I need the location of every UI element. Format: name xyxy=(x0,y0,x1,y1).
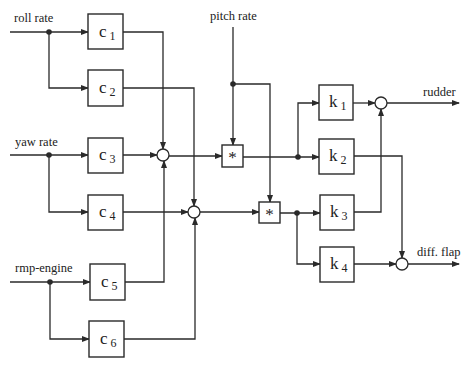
rmp-engine-wiring xyxy=(10,279,90,339)
block-symbol: c xyxy=(99,22,107,41)
junction-dot xyxy=(46,29,52,35)
output-block-k2: k2 xyxy=(319,139,354,174)
gain-block-c3: c3 xyxy=(88,138,123,173)
pitch-rate-wiring xyxy=(230,27,270,202)
input-label-yaw-rate: yaw rate xyxy=(15,135,58,149)
block-subscript: 3 xyxy=(342,209,348,223)
junction-dot xyxy=(295,154,301,160)
output-label-rudder: rudder xyxy=(423,85,456,99)
summing-junction-b xyxy=(188,206,200,218)
block-subscript: 4 xyxy=(342,261,348,275)
block-symbol: c xyxy=(101,272,109,291)
input-label-pitch-rate: pitch rate xyxy=(210,9,257,23)
multiplier-1: * xyxy=(222,145,243,167)
block-diagram: roll rate yaw rate rmp-engine pitch rate… xyxy=(0,0,472,367)
gain-block-c2: c2 xyxy=(88,70,123,106)
output-wiring xyxy=(387,103,459,264)
output-block-k4: k4 xyxy=(320,247,354,282)
block-symbol: k xyxy=(330,202,339,221)
block-subscript: 1 xyxy=(341,99,347,113)
block-subscript: 4 xyxy=(110,209,116,223)
block-symbol: c xyxy=(99,78,107,97)
summer-output-wiring xyxy=(169,156,259,212)
summing-junction-diff-flap xyxy=(396,258,408,270)
input-label-roll-rate: roll rate xyxy=(14,11,54,25)
block-subscript: 3 xyxy=(110,152,116,166)
summing-junction-rudder xyxy=(375,97,387,109)
k-block-output-wiring xyxy=(353,103,402,264)
block-subscript: 2 xyxy=(110,85,116,99)
output-block-k3: k3 xyxy=(320,195,354,230)
block-subscript: 6 xyxy=(111,336,117,350)
block-symbol: k xyxy=(329,92,338,111)
block-symbol: c xyxy=(100,329,108,348)
block-subscript: 5 xyxy=(112,279,118,293)
gain-block-c5: c5 xyxy=(90,264,125,300)
block-subscript: 2 xyxy=(341,153,347,167)
junction-dot xyxy=(47,279,53,285)
gain-block-c1: c1 xyxy=(88,14,123,49)
block-subscript: 1 xyxy=(110,29,116,43)
multiplier-output-wiring xyxy=(243,103,320,264)
multiplier-2: * xyxy=(259,202,280,224)
block-symbol: c xyxy=(99,145,107,164)
junction-dot xyxy=(230,81,236,87)
block-symbol: k xyxy=(329,146,338,165)
roll-rate-wiring xyxy=(10,29,88,88)
output-label-diff-flap: diff. flap xyxy=(417,245,461,259)
input-label-rmp-engine: rmp-engine xyxy=(15,261,73,275)
multiplier-symbol: * xyxy=(228,148,237,167)
output-block-k1: k1 xyxy=(319,85,353,120)
c-block-output-wiring xyxy=(123,32,195,339)
block-symbol: k xyxy=(330,254,339,273)
junction-dot xyxy=(294,210,300,216)
summing-junction-a xyxy=(157,149,169,161)
multiplier-symbol: * xyxy=(265,205,274,224)
gain-block-c6: c6 xyxy=(89,321,124,357)
block-symbol: c xyxy=(99,202,107,221)
yaw-rate-wiring xyxy=(10,152,88,212)
junction-dot xyxy=(46,152,52,158)
gain-block-c4: c4 xyxy=(88,195,123,230)
